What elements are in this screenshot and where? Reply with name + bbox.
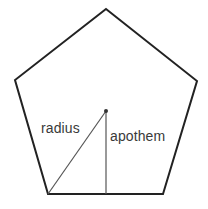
pentagon-diagram: radius apothem	[0, 0, 208, 209]
geometry-canvas	[0, 0, 208, 209]
center-point-marker	[104, 109, 108, 113]
apothem-label: apothem	[110, 129, 165, 143]
radius-label: radius	[41, 121, 80, 135]
